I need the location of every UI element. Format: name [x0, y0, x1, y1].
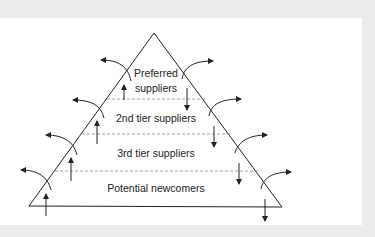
exit-left-arrow-icon: [101, 60, 131, 81]
tier-label-second: 2nd tier suppliers: [116, 112, 196, 124]
exit-right-arrow-icon: [182, 61, 213, 79]
tier-label-third: 3rd tier suppliers: [117, 147, 195, 159]
supplier-pyramid-diagram: Preferred suppliers 2nd tier suppliers 3…: [0, 0, 375, 237]
tier-label-preferred-line1: Preferred: [134, 67, 178, 79]
exit-left-arrow-icon: [21, 170, 51, 190]
exit-left-arrow-icon: [46, 135, 77, 155]
tier-label-preferred-line2: suppliers: [135, 82, 177, 94]
exit-left-arrow-icon: [73, 100, 104, 118]
exit-right-arrow-icon: [261, 172, 291, 189]
tier-label-newcomers: Potential newcomers: [107, 182, 204, 194]
